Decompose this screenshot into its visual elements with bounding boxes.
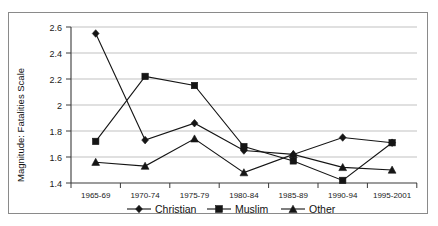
square-marker-icon-muslim-5: [340, 177, 346, 183]
y-tick-label-1.6: 1.6: [49, 153, 62, 163]
square-marker-icon-muslim-0: [93, 138, 99, 144]
square-marker-icon-muslim-1: [142, 73, 148, 79]
series-muslim: [93, 73, 396, 183]
diamond-marker-icon-christian-0: [92, 30, 99, 38]
legend-label-christian: Christian: [155, 203, 197, 215]
y-tick-label-1.8: 1.8: [49, 127, 62, 137]
y-tick-label-2.6: 2.6: [49, 23, 62, 33]
x-tick-label-1985-89: 1985-89: [279, 191, 309, 200]
square-marker-icon-muslim-6: [389, 140, 395, 146]
series-line-christian: [96, 34, 392, 155]
legend-item-muslim[interactable]: Muslim: [207, 203, 269, 215]
square-marker-icon-muslim-2: [191, 82, 197, 88]
chart-frame: Magnitude: Fatalities Scale 2.6 2.4 2.: [8, 12, 428, 214]
diamond-marker-icon-christian-2: [191, 119, 198, 127]
diamond-marker-icon-christian-1: [142, 136, 149, 144]
square-marker-icon: [216, 206, 223, 213]
square-marker-icon-muslim-3: [241, 143, 247, 149]
y-tick-label-2.2: 2.2: [49, 75, 62, 85]
y-tick-label-2.4: 2.4: [49, 49, 62, 59]
diamond-marker-icon-christian-5: [339, 134, 346, 142]
x-tick-label-1970-74: 1970-74: [130, 191, 160, 200]
y-tick-label-1.4: 1.4: [49, 179, 62, 189]
x-tick-label-1965-69: 1965-69: [81, 191, 111, 200]
legend-label-muslim: Muslim: [235, 203, 269, 215]
x-tick-label-1995-2001: 1995-2001: [373, 191, 412, 200]
legend: Christian Muslim Other: [127, 203, 336, 215]
series-christian: [92, 30, 395, 159]
x-tickmarks: [71, 183, 417, 188]
triangle-marker-icon-other-2: [191, 135, 199, 142]
legend-item-other[interactable]: Other: [281, 203, 336, 215]
series-other: [92, 135, 396, 176]
legend-label-other: Other: [309, 203, 336, 215]
y-tickmarks: [66, 27, 71, 183]
diamond-marker-icon: [136, 205, 143, 213]
square-marker-icon-muslim-4: [290, 158, 296, 164]
y-tick-label-2: 2: [57, 101, 62, 111]
triangle-marker-icon-other-3: [240, 169, 248, 176]
line-chart: Magnitude: Fatalities Scale 2.6 2.4 2.: [9, 13, 429, 215]
legend-item-christian[interactable]: Christian: [127, 203, 197, 215]
x-tick-label-1980-84: 1980-84: [229, 191, 259, 200]
x-tick-label-1990-94: 1990-94: [328, 191, 358, 200]
y-axis-title: Magnitude: Fatalities Scale: [15, 68, 26, 182]
triangle-marker-icon-other-0: [92, 158, 100, 165]
x-tick-label-1975-79: 1975-79: [180, 191, 210, 200]
